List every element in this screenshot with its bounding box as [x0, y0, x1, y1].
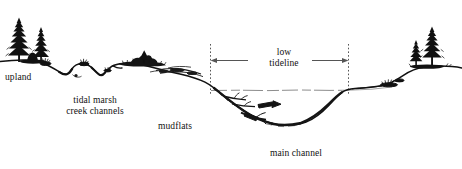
right-bank-hummock — [381, 83, 398, 87]
low-tideline-left-arrowhead — [211, 58, 218, 63]
creek-notch-middle — [92, 67, 106, 75]
channel-debris-group — [225, 93, 295, 127]
right-bank-hummock-small — [395, 79, 404, 82]
marsh-shrub-mass — [118, 50, 166, 66]
tidal-estuary-cross-section-figure: upland tidal marsh creek channels mudfla… — [0, 0, 462, 169]
conifer-tree-short-right-icon — [410, 40, 423, 67]
right-upland-ground-tuft — [410, 64, 444, 68]
wrack-blob-1 — [170, 69, 184, 72]
wrack-streak-3 — [168, 66, 191, 68]
cross-section-drawing — [0, 0, 462, 169]
tidal-creek-channel-detail-group — [59, 66, 122, 77]
debris-branch-1-twig-b — [241, 96, 248, 100]
label-low-tideline: low tideline — [249, 47, 319, 68]
wrack-blob-3 — [159, 70, 167, 72]
debris-dark-blob-a-tip — [272, 101, 281, 108]
conifer-tree-tall-left-icon — [6, 18, 33, 63]
label-tidal-marsh-creek-channels: tidal marsh creek channels — [45, 95, 145, 116]
water-surface-line — [211, 90, 349, 91]
label-upland: upland — [5, 72, 61, 83]
creek-notch-small-right — [113, 66, 122, 68]
right-upland-trees-group — [409, 27, 451, 69]
conifer-tree-tall-right-icon — [420, 27, 445, 67]
marsh-hummock-c — [104, 69, 111, 72]
marsh-vegetation-group — [40, 50, 166, 72]
low-tideline-right-arrowhead — [342, 58, 349, 63]
debris-branch-2-twig-a — [244, 102, 251, 106]
marsh-hummock-b — [79, 62, 89, 66]
label-main-channel: main channel — [250, 148, 342, 159]
left-upland-trees-group — [6, 18, 50, 64]
channel-right-wall-ink-accent — [300, 92, 342, 123]
label-mudflats: mudflats — [133, 121, 217, 132]
channel-floor-ink-accent — [272, 123, 300, 125]
upland-ground-tuft — [20, 60, 46, 64]
mudflat-wrack-debris-group — [150, 66, 203, 76]
debris-branch-1-twig-a — [234, 93, 239, 99]
debris-branch-3-twig-a — [256, 113, 266, 118]
right-bank-marsh-fringe-group — [352, 79, 404, 89]
wrack-blob-2 — [187, 72, 197, 75]
